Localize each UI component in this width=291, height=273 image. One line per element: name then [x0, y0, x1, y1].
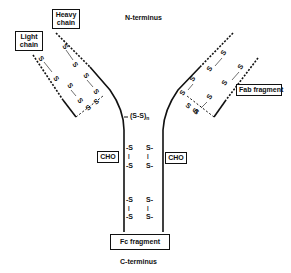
light-chain-left-solid — [63, 100, 76, 117]
svg-text:S: S — [37, 55, 46, 63]
n-terminus-label: N-terminus — [125, 14, 162, 21]
svg-text:S: S — [205, 64, 214, 72]
svg-text:S: S — [71, 61, 80, 69]
fab-fragment-label: Fab fragment — [236, 84, 282, 96]
disulfide-bonds-fc: -S | -S S- | S- -S | -S S- | S- — [126, 144, 154, 220]
svg-text:|: | — [128, 153, 130, 159]
svg-text:S-: S- — [146, 213, 154, 220]
svg-text:S: S — [236, 62, 245, 70]
fc-fragment-label: Fc fragment — [110, 234, 170, 250]
svg-text:S: S — [92, 88, 101, 96]
heavy-chain-left-dotted — [56, 33, 90, 67]
heavy-chain-right-dotted — [200, 33, 233, 67]
disulfide-bonds-right-arm: S S S S S S S S S S — [178, 48, 245, 116]
cho-left-label: CHO — [97, 151, 119, 163]
svg-text:S: S — [52, 75, 61, 83]
hinge-disulfide-label: (S-S)n — [130, 112, 149, 121]
heavy-chain-label: Heavy chain — [52, 9, 80, 29]
svg-text:-S: -S — [126, 162, 133, 169]
svg-text:S: S — [82, 72, 91, 80]
svg-text:-S: -S — [126, 144, 133, 151]
svg-text:S-: S- — [146, 162, 154, 169]
svg-text:|: | — [147, 205, 149, 211]
svg-text:S: S — [219, 48, 228, 56]
svg-text:S: S — [178, 88, 187, 96]
svg-text:|: | — [128, 205, 130, 211]
svg-text:S-: S- — [146, 144, 154, 151]
light-chain-right-solid — [214, 100, 226, 117]
disulfide-bonds-left-arm: S S S S S S S S S S — [37, 43, 101, 112]
svg-text:S: S — [84, 103, 92, 112]
svg-text:S: S — [61, 43, 70, 51]
light-chain-label: Light chain — [15, 31, 43, 51]
svg-text:S: S — [66, 82, 75, 90]
svg-text:S: S — [205, 92, 214, 100]
svg-text:S: S — [220, 78, 229, 86]
cho-right-label: CHO — [165, 152, 187, 164]
svg-text:S-: S- — [146, 196, 154, 203]
c-terminus-label: C-terminus — [120, 258, 157, 265]
svg-text:-S: -S — [126, 213, 133, 220]
antibody-diagram: S S S S S S S S S S S S S S S S S S S S … — [0, 0, 291, 273]
svg-text:S: S — [76, 97, 85, 105]
svg-text:-S: -S — [126, 196, 133, 203]
svg-text:|: | — [147, 153, 149, 159]
